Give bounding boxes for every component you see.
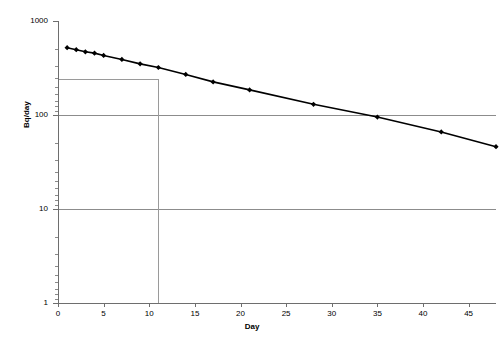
y-minor-tick — [55, 294, 58, 295]
x-tick-0 — [58, 303, 59, 307]
data-point-marker — [439, 129, 444, 134]
data-point-marker — [493, 144, 498, 149]
gridline-10 — [58, 209, 496, 210]
x-tick-label-30: 30 — [317, 309, 347, 318]
y-tick-100 — [53, 115, 58, 116]
x-tick-45 — [469, 303, 470, 307]
chart-container: 1000 100 10 1 0 5 10 15 20 25 30 35 40 4… — [0, 0, 504, 348]
data-point-marker — [119, 57, 124, 62]
y-tick-label-1: 1 — [20, 299, 48, 307]
reference-line-horizontal — [58, 79, 158, 80]
x-tick-label-0: 0 — [43, 309, 73, 318]
data-point-marker — [156, 65, 161, 70]
data-point-marker — [138, 61, 143, 66]
x-tick-15 — [195, 303, 196, 307]
data-point-marker — [74, 47, 79, 52]
y-minor-tick — [55, 49, 58, 50]
y-axis-line — [58, 21, 59, 303]
y-minor-tick — [55, 299, 58, 300]
y-tick-10 — [53, 209, 58, 210]
data-point-marker — [92, 51, 97, 56]
y-minor-tick — [55, 266, 58, 267]
data-point-marker — [311, 102, 316, 107]
x-tick-label-20: 20 — [226, 309, 256, 318]
data-point-marker — [65, 45, 70, 50]
x-tick-35 — [377, 303, 378, 307]
data-point-marker — [247, 87, 252, 92]
y-axis-title: Bq/day — [22, 101, 31, 128]
y-tick-label-1000: 1000 — [20, 17, 48, 25]
y-minor-tick — [55, 254, 58, 255]
y-minor-tick — [55, 282, 58, 283]
data-point-marker — [211, 79, 216, 84]
y-minor-tick — [55, 78, 58, 79]
reference-line-vertical — [158, 79, 159, 303]
y-minor-tick — [55, 205, 58, 206]
data-point-marker — [101, 53, 106, 58]
y-minor-tick — [55, 237, 58, 238]
y-minor-tick — [55, 200, 58, 201]
y-tick-1000 — [53, 21, 58, 22]
x-tick-5 — [104, 303, 105, 307]
y-minor-tick — [55, 181, 58, 182]
x-tick-label-35: 35 — [362, 309, 392, 318]
x-axis-title: Day — [0, 322, 504, 331]
data-point-marker — [183, 72, 188, 77]
y-minor-tick — [55, 111, 58, 112]
y-minor-tick — [55, 188, 58, 189]
gridline-100 — [58, 115, 496, 116]
y-minor-tick — [55, 172, 58, 173]
x-tick-10 — [149, 303, 150, 307]
y-minor-tick — [55, 87, 58, 88]
x-tick-40 — [423, 303, 424, 307]
x-tick-label-10: 10 — [134, 309, 164, 318]
y-minor-tick — [55, 101, 58, 102]
y-minor-tick — [55, 289, 58, 290]
x-tick-label-40: 40 — [408, 309, 438, 318]
y-minor-tick — [55, 195, 58, 196]
y-minor-tick — [55, 94, 58, 95]
x-tick-label-25: 25 — [271, 309, 301, 318]
y-minor-tick — [55, 66, 58, 67]
data-series-line — [0, 0, 504, 348]
x-axis-line — [58, 303, 496, 304]
y-minor-tick — [55, 106, 58, 107]
y-minor-tick — [55, 143, 58, 144]
data-point-marker — [83, 49, 88, 54]
x-tick-25 — [286, 303, 287, 307]
y-minor-tick — [55, 160, 58, 161]
x-tick-label-15: 15 — [180, 309, 210, 318]
y-tick-label-10: 10 — [20, 205, 48, 213]
x-tick-label-5: 5 — [89, 309, 119, 318]
x-tick-label-45: 45 — [454, 309, 484, 318]
x-tick-20 — [241, 303, 242, 307]
y-minor-tick — [55, 275, 58, 276]
x-tick-30 — [332, 303, 333, 307]
